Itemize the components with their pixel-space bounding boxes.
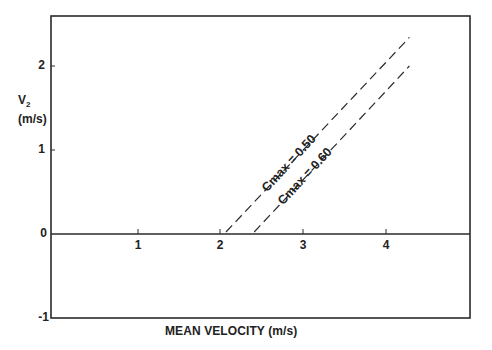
plot-frame bbox=[51, 16, 470, 318]
y-axis-label: V2 (m/s) bbox=[18, 93, 47, 126]
y-axis-label-main: V bbox=[18, 93, 26, 107]
y-axis-label-units: (m/s) bbox=[18, 112, 47, 126]
chart-canvas bbox=[0, 0, 492, 350]
x-axis-label: MEAN VELOCITY (m/s) bbox=[165, 324, 297, 338]
y-tick-label-neg1: -1 bbox=[19, 310, 49, 324]
series-cmax-060-line bbox=[254, 66, 409, 232]
y-tick-label-0: 0 bbox=[17, 226, 47, 240]
x-tick-label-3: 3 bbox=[293, 238, 313, 252]
y-tick-label-1: 1 bbox=[15, 142, 45, 156]
x-tick-label-1: 1 bbox=[128, 238, 148, 252]
series-cmax-050-line bbox=[226, 37, 409, 232]
y-axis-label-subscript: 2 bbox=[26, 100, 30, 109]
velocity-chart: 2 1 0 -1 V2 (m/s) 1 2 3 4 MEAN VELOCITY … bbox=[0, 0, 492, 350]
x-tick-label-4: 4 bbox=[376, 238, 396, 252]
y-tick-label-2: 2 bbox=[15, 58, 45, 72]
x-tick-label-2: 2 bbox=[210, 238, 230, 252]
